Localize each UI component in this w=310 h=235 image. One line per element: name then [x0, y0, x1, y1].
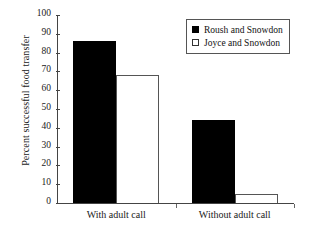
x-axis-category-label: Without adult call	[175, 209, 295, 220]
legend-label-series-0: Roush and Snowdon	[204, 25, 283, 35]
bar-1-0	[192, 120, 235, 204]
legend-item-roush-and-snowdon: Roush and Snowdon	[192, 23, 283, 36]
y-axis-line	[57, 15, 58, 204]
legend-label-series-1: Joyce and Snowdon	[204, 38, 280, 48]
bar-0-0	[73, 41, 116, 204]
legend-swatch-filled-icon	[192, 26, 199, 33]
legend-swatch-open-icon	[192, 39, 199, 46]
y-axis-tick-label: 50	[42, 102, 52, 112]
x-axis-category-label: With adult call	[56, 209, 176, 220]
y-axis-tick-label: 30	[42, 140, 52, 150]
y-axis-tick-label: 10	[42, 177, 52, 187]
y-axis-tick-group: 1009080706050403020100	[0, 0, 60, 235]
bar-0-1	[116, 75, 159, 204]
y-axis-tick-label: 40	[42, 121, 52, 131]
legend-item-joyce-and-snowdon: Joyce and Snowdon	[192, 36, 283, 49]
chart-legend: Roush and Snowdon Joyce and Snowdon	[186, 19, 290, 54]
y-axis-tick-label: 90	[42, 27, 52, 37]
x-axis-tick-mark	[294, 204, 295, 208]
y-axis-tick-label: 70	[42, 64, 52, 74]
x-axis-tick-mark	[176, 204, 177, 208]
y-axis-tick-label: 0	[46, 196, 51, 206]
bar-chart: Percent successful food transfer 1009080…	[0, 0, 310, 235]
y-axis-tick-label: 60	[42, 83, 52, 93]
y-axis-tick-label: 20	[42, 158, 52, 168]
y-axis-tick-label: 80	[42, 46, 52, 56]
y-axis-tick-label: 100	[37, 8, 51, 18]
